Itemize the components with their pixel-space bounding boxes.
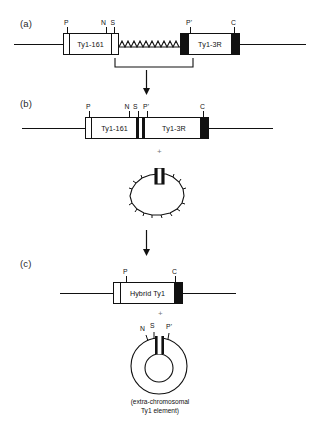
site-label-s-b: S (133, 103, 138, 110)
ltr-left-open-b (85, 117, 92, 139)
ltr-right-solid-c (174, 282, 183, 304)
site-tick-c-a (234, 27, 235, 34)
ltr-right-open-ty1-161-a (111, 33, 119, 55)
site-tick-p-prime-a (190, 27, 191, 34)
panel-letter-c: (c) (20, 258, 32, 269)
site-tick-n-a (106, 27, 107, 34)
chromosome-line-right-b (209, 128, 273, 129)
site-label-c-b: C (200, 103, 205, 110)
down-arrow-icon-b-to-c (141, 230, 152, 257)
site-tick-s-b (138, 111, 139, 118)
site-label-p-prime-circle: P' (166, 323, 172, 330)
excised-circle-intermediate (120, 168, 198, 220)
element-label-ty1-161-b: Ty1-161 (93, 124, 136, 133)
element-label-ty1-3r-a: Ty1-3R (189, 40, 231, 49)
site-label-p-b: P (86, 103, 91, 110)
site-label-p-prime-b: P' (143, 103, 149, 110)
zigzag-recombination-icon-a (119, 36, 180, 48)
junction-bar-right-b (142, 117, 145, 139)
ltr-left-open-c (113, 282, 121, 304)
element-label-hybrid-ty1-c: Hybrid Ty1 (121, 289, 174, 298)
site-label-p-a: P (64, 19, 69, 26)
site-label-p-c: P (123, 268, 128, 275)
site-tick-p-a (67, 27, 68, 34)
element-label-ty1-3r-b: Ty1-3R (148, 124, 200, 133)
junction-bar-left-b (136, 117, 139, 139)
site-tick-c-c (175, 276, 176, 283)
down-arrow-icon-a-to-b (141, 70, 152, 96)
extra-chromosomal-ty1-circle (123, 330, 195, 396)
site-label-c-c: C (172, 268, 177, 275)
caption-extrachromosomal: (extra-chromosomal Ty1 element) (112, 398, 208, 416)
site-tick-p-prime-b (147, 111, 148, 118)
site-tick-c-b (203, 111, 204, 118)
site-label-n-b: N (125, 103, 130, 110)
plus-sign-c: + (158, 310, 163, 318)
chromosome-line-left-a (14, 44, 63, 45)
site-label-s-circle: S (150, 322, 155, 329)
site-label-p-prime-a: P' (186, 19, 192, 26)
panel-letter-b: (b) (20, 98, 32, 109)
site-tick-p-b (89, 111, 90, 118)
chromosome-line-right-a (240, 44, 306, 45)
element-label-ty1-161-a: Ty1-161 (70, 40, 111, 49)
chromosome-line-left-c (60, 293, 113, 294)
plus-sign-b: + (157, 148, 162, 156)
span-bracket-icon-a (114, 56, 194, 68)
site-label-n-a: N (101, 19, 106, 26)
site-label-n-circle: N (140, 325, 145, 332)
ltr-right-solid-ty1-3r-a (231, 33, 240, 55)
figure-canvas: (a) Ty1-161 P N S Ty1-3R P' (0, 0, 325, 432)
ltr-left-open-ty1-161-a (63, 33, 70, 55)
ltr-right-solid-b (200, 117, 209, 139)
site-tick-n-b (129, 111, 130, 118)
site-tick-s-a (114, 27, 115, 34)
chromosome-line-right-c (183, 293, 236, 294)
site-label-c-a: C (231, 19, 236, 26)
site-tick-p-c (126, 276, 127, 283)
ltr-left-solid-ty1-3r-a (180, 33, 189, 55)
site-label-s-a: S (111, 19, 116, 26)
chromosome-line-left-b (22, 128, 85, 129)
panel-letter-a: (a) (20, 18, 32, 29)
